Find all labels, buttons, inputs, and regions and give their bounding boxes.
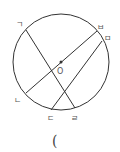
chord-giyeok-rieul [26, 30, 75, 108]
label-rieul: ㄹ [71, 114, 78, 123]
label-giyeok: ㄱ [16, 20, 23, 29]
circle-diagram: O ㄱ ㄴ ㄷ ㄹ ㅁ ㅂ ( [0, 0, 120, 152]
center-point [60, 61, 63, 64]
answer-blank-paren: ( [52, 133, 57, 149]
label-center-o: O [57, 67, 63, 76]
label-nieun: ㄴ [14, 96, 21, 105]
label-bieup: ㅂ [97, 23, 104, 32]
label-digeut: ㄷ [47, 114, 54, 123]
label-mieum: ㅁ [104, 34, 111, 43]
